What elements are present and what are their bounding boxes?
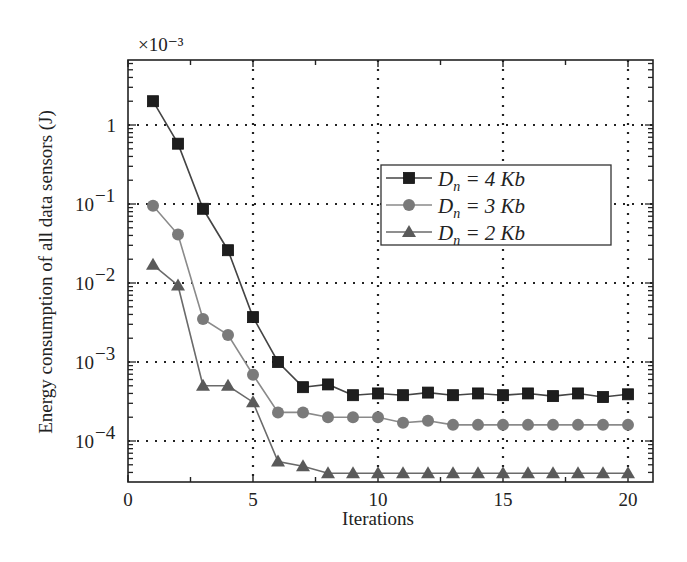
legend-label: Dn = 2 Kb [437, 221, 525, 248]
triangle-marker [421, 466, 435, 478]
triangle-marker [346, 466, 360, 478]
triangle-marker [521, 466, 535, 478]
circle-marker [347, 411, 359, 423]
square-marker [248, 312, 259, 323]
y-tick-exponent: −4 [95, 422, 116, 443]
y-tick-exponent: −1 [95, 185, 115, 206]
plot-frame [128, 60, 653, 482]
circle-marker [247, 369, 259, 381]
square-marker [148, 96, 159, 107]
square-marker [548, 391, 559, 402]
legend-label: Dn = 4 Kb [437, 167, 525, 194]
square-marker [323, 379, 334, 390]
circle-marker [522, 419, 534, 431]
triangle-marker [621, 466, 635, 478]
x-tick-labels: 05101520 [123, 489, 637, 510]
circle-marker [297, 406, 309, 418]
square-marker [598, 392, 609, 403]
square-marker [448, 390, 459, 401]
circle-marker [547, 419, 559, 431]
triangle-marker [496, 466, 510, 478]
circle-marker [222, 329, 234, 341]
y-axis-title: Energy consumption of all data sensors (… [35, 110, 57, 434]
data-series [146, 96, 635, 479]
triangle-marker [171, 278, 185, 290]
square-marker [348, 390, 359, 401]
triangle-marker [571, 466, 585, 478]
circle-marker [322, 411, 334, 423]
square-marker [373, 388, 384, 399]
legend-square-icon [404, 173, 415, 184]
x-tick-label: 10 [369, 489, 388, 510]
square-marker [498, 390, 509, 401]
triangle-marker [446, 466, 460, 478]
circle-marker [472, 419, 484, 431]
gridlines [128, 60, 653, 482]
legend-label: Dn = 3 Kb [437, 194, 525, 221]
square-marker [398, 390, 409, 401]
circle-marker [572, 419, 584, 431]
y-tick-exponent: −3 [95, 343, 115, 364]
square-marker [423, 387, 434, 398]
x-tick-label: 20 [619, 489, 638, 510]
triangle-marker [546, 466, 560, 478]
y-tick-exponent: −2 [95, 264, 115, 285]
circle-marker [497, 419, 509, 431]
circle-marker [597, 419, 609, 431]
square-marker [223, 245, 234, 256]
square-marker [573, 388, 584, 399]
triangle-marker [246, 395, 260, 407]
legend-circle-icon [403, 199, 415, 211]
y-tick-labels: 110−110−210−310−4 [75, 115, 116, 452]
series-square [148, 96, 634, 403]
x-axis-title: Iterations [342, 508, 414, 529]
square-marker [198, 203, 209, 214]
triangle-marker [221, 379, 235, 391]
triangle-marker [596, 466, 610, 478]
circle-marker [197, 313, 209, 325]
circle-marker [397, 417, 409, 429]
circle-marker [272, 406, 284, 418]
axis-ticks [128, 60, 653, 482]
circle-marker [172, 229, 184, 241]
triangle-marker [371, 466, 385, 478]
legend: Dn = 4 KbDn = 3 KbDn = 2 Kb [381, 165, 611, 248]
circle-marker [372, 411, 384, 423]
x-tick-label: 0 [123, 489, 133, 510]
square-marker [473, 388, 484, 399]
triangle-marker [146, 258, 160, 270]
circle-marker [422, 415, 434, 427]
triangle-marker [396, 466, 410, 478]
circle-marker [622, 419, 634, 431]
energy-chart: Dn = 4 KbDn = 3 KbDn = 2 Kb ×10⁻³ Iterat… [0, 0, 687, 562]
y-tick-label: 10 [75, 431, 94, 452]
square-marker [173, 138, 184, 149]
square-marker [523, 388, 534, 399]
square-marker [623, 389, 634, 400]
y-multiplier-label: ×10⁻³ [138, 34, 184, 55]
circle-marker [447, 419, 459, 431]
square-marker [273, 357, 284, 368]
triangle-marker [271, 455, 285, 467]
square-marker [298, 382, 309, 393]
series-triangle [146, 258, 635, 479]
triangle-marker [196, 379, 210, 391]
y-tick-label: 1 [107, 115, 117, 136]
triangle-marker [471, 466, 485, 478]
x-tick-label: 15 [494, 489, 513, 510]
y-tick-label: 10 [75, 194, 94, 215]
x-tick-label: 5 [248, 489, 258, 510]
circle-marker [147, 200, 159, 212]
y-tick-label: 10 [75, 273, 94, 294]
y-tick-label: 10 [75, 352, 94, 373]
